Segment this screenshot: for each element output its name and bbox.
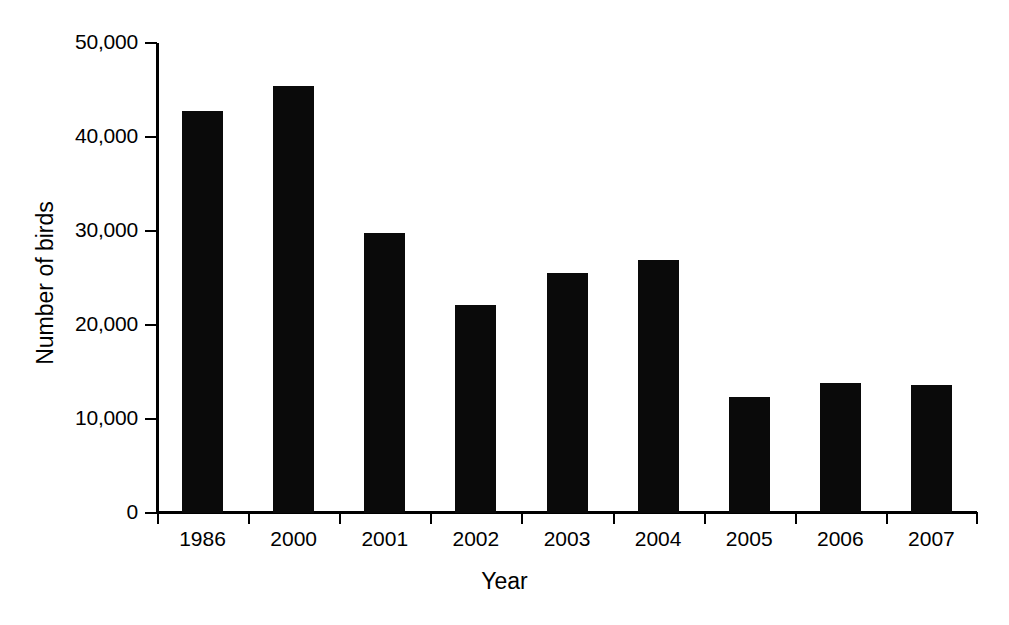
y-axis-tick: 40,000 [0, 136, 157, 138]
bar [729, 397, 770, 513]
y-axis-tick-mark [145, 418, 157, 420]
x-axis-tick-label: 2002 [426, 527, 526, 551]
x-axis-tick-mark [704, 512, 706, 524]
y-axis-tick-label: 0 [50, 501, 138, 522]
y-axis-tick-mark [145, 324, 157, 326]
y-axis-tick-label: 50,000 [50, 31, 138, 52]
x-axis-tick-mark [795, 512, 797, 524]
x-axis-tick-mark [613, 512, 615, 524]
x-axis-tick-mark [339, 512, 341, 524]
x-axis-tick-mark [521, 512, 523, 524]
y-axis-tick: 50,000 [0, 42, 157, 44]
x-axis-title: Year [0, 568, 1009, 594]
bar [911, 385, 952, 513]
y-axis-tick-label: 20,000 [50, 313, 138, 334]
x-axis-tick-mark [248, 512, 250, 524]
bar [820, 383, 861, 513]
x-axis-tick-label: 2004 [608, 527, 708, 551]
x-axis-tick-label: 1986 [153, 527, 253, 551]
x-axis-tick-mark [430, 512, 432, 524]
y-axis-tick: 0 [0, 512, 157, 514]
x-axis-tick-mark [886, 512, 888, 524]
y-axis-tick-label: 10,000 [50, 407, 138, 428]
bar [455, 305, 496, 513]
x-axis-end-tick [976, 512, 978, 524]
bar-chart: Number of birds 010,00020,00030,00040,00… [0, 0, 1009, 625]
x-axis-tick-label: 2001 [335, 527, 435, 551]
x-axis-tick-label: 2003 [517, 527, 617, 551]
bar [182, 111, 223, 513]
y-axis-tick-label: 40,000 [50, 125, 138, 146]
y-axis-tick-label: 30,000 [50, 219, 138, 240]
y-axis-tick-mark [145, 230, 157, 232]
y-axis-title: Number of birds [32, 153, 58, 413]
bar [638, 260, 679, 513]
y-axis-tick-mark [145, 512, 157, 514]
x-axis-tick-label: 2007 [881, 527, 981, 551]
y-axis-tick-mark [145, 136, 157, 138]
bar [273, 86, 314, 513]
bar [547, 273, 588, 513]
y-axis-tick-mark [145, 42, 157, 44]
x-axis-tick-label: 2005 [699, 527, 799, 551]
y-axis-tick: 10,000 [0, 418, 157, 420]
x-axis-tick-label: 2000 [244, 527, 344, 551]
x-axis-tick-label: 2006 [790, 527, 890, 551]
x-axis-end-tick [157, 512, 159, 524]
bar [364, 233, 405, 513]
y-axis-line [156, 43, 159, 514]
y-axis-tick: 20,000 [0, 324, 157, 326]
y-axis-tick: 30,000 [0, 230, 157, 232]
